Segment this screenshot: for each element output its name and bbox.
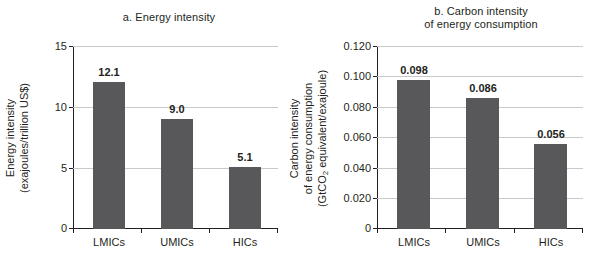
panel-a-xtick-1 — [141, 229, 142, 233]
panel-b-bar-hics — [534, 144, 567, 229]
panel-b-ytick-label-0060: 0.060 — [343, 131, 371, 143]
panel-b-ytick-0100 — [373, 76, 377, 77]
panel-b-ytick-0060 — [373, 137, 377, 138]
panel-b-y-axis-title-line-3: (GtCO2 equivalent/exajoule) — [315, 44, 333, 234]
panel-a-ytick-5 — [69, 168, 73, 169]
panel-a-bar-label-lmics: 12.1 — [98, 66, 119, 78]
panel-a-title-line-1: a. Energy intensity — [60, 11, 278, 24]
panel-b-ytick-0020 — [373, 198, 377, 199]
panel-a-xtick-label-lmics: LMICs — [93, 236, 125, 248]
panel-b-ytick-label-0100: 0.100 — [343, 70, 371, 82]
panel-b-y-axis-title-line-3-pre: (GtCO — [316, 175, 328, 207]
panel-a-bar-lmics — [93, 82, 125, 229]
panel-b-xtick-1 — [445, 229, 446, 233]
panel-b-carbon-intensity: b. Carbon intensity of energy consumptio… — [295, 0, 589, 262]
panel-b-bar-label-umics: 0.086 — [469, 82, 497, 94]
panel-b-y-axis-title: Carbon intensity of energy consumption (… — [287, 44, 332, 234]
panel-a-xtick-2 — [209, 229, 210, 233]
panel-a-xtick-label-hics: HICs — [233, 236, 257, 248]
panel-b-y-axis-title-line-2: of energy consumption — [301, 44, 315, 234]
panel-b-ytick-label-0020: 0.020 — [343, 192, 371, 204]
panel-b-title-line-2: of energy consumption — [373, 18, 589, 31]
panel-a-plot-area: 15 10 5 0 12.1 LMICs 9.0 UMICs 5.1 HICs — [73, 46, 278, 229]
panel-b-title-line-1: b. Carbon intensity — [373, 5, 589, 18]
panel-b-y-axis-title-line-3-post: equivalent/exajoule) — [316, 70, 328, 171]
panel-b-ytick-label-0120: 0.120 — [343, 40, 371, 52]
panel-a-y-axis-title-line-2: (exajoules/trillion US$) — [17, 43, 31, 233]
panel-b-xtick-label-hics: HICs — [539, 236, 563, 248]
panel-a-bar-hics — [229, 167, 261, 229]
panel-a-ytick-10 — [69, 107, 73, 108]
panel-a-ytick-label-5: 5 — [61, 162, 67, 174]
panel-a-title: a. Energy intensity — [60, 11, 278, 24]
panel-a-xtick-3 — [277, 229, 278, 233]
panel-b-bar-label-lmics: 0.098 — [400, 64, 428, 76]
panel-b-xtick-3 — [582, 229, 583, 233]
panel-a-y-axis-line — [73, 46, 74, 229]
figure-two-panel-bar-charts: a. Energy intensity Energy intensity (ex… — [0, 0, 589, 262]
panel-a-y-axis-title: Energy intensity (exajoules/trillion US$… — [3, 43, 33, 233]
panel-a-energy-intensity: a. Energy intensity Energy intensity (ex… — [0, 0, 295, 262]
panel-b-plot-area: 0.120 0.100 0.080 0.060 0.040 0.020 0 — [377, 46, 583, 229]
panel-a-bar-label-hics: 5.1 — [237, 151, 252, 163]
panel-b-xtick-label-umics: UMICs — [466, 236, 500, 248]
panel-a-bar-label-umics: 9.0 — [169, 103, 184, 115]
panel-b-ytick-label-0: 0 — [365, 222, 371, 234]
panel-a-ytick-15 — [69, 46, 73, 47]
panel-b-title: b. Carbon intensity of energy consumptio… — [373, 5, 589, 31]
panel-b-xtick-2 — [514, 229, 515, 233]
panel-a-bar-umics — [161, 119, 193, 229]
panel-b-gridline-0120 — [377, 46, 583, 47]
panel-b-ytick-label-0040: 0.040 — [343, 162, 371, 174]
panel-a-gridline-15 — [73, 46, 278, 47]
panel-b-bar-umics — [466, 98, 499, 229]
panel-b-xtick-label-lmics: LMICs — [398, 236, 430, 248]
panel-a-ytick-label-10: 10 — [55, 101, 67, 113]
panel-b-ytick-0040 — [373, 168, 377, 169]
panel-b-y-axis-title-subscript: 2 — [321, 171, 330, 175]
panel-a-xtick-label-umics: UMICs — [160, 236, 194, 248]
panel-a-y-axis-title-line-1: Energy intensity — [3, 43, 17, 233]
panel-b-bar-label-hics: 0.056 — [537, 128, 565, 140]
panel-b-gridline-0100 — [377, 76, 583, 77]
panel-b-ytick-label-0080: 0.080 — [343, 101, 371, 113]
panel-b-ytick-0080 — [373, 107, 377, 108]
panel-b-ytick-0120 — [373, 46, 377, 47]
panel-b-y-axis-title-line-1: Carbon intensity — [287, 44, 301, 234]
panel-b-bar-lmics — [397, 80, 430, 229]
panel-a-ytick-label-0: 0 — [61, 222, 67, 234]
panel-a-ytick-label-15: 15 — [55, 40, 67, 52]
panel-b-xtick-0 — [377, 229, 378, 233]
panel-a-xtick-0 — [73, 229, 74, 233]
